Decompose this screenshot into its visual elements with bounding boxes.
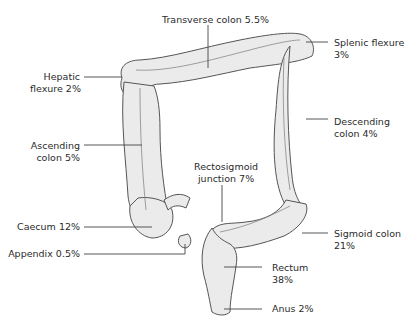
label-ascending-colon: Ascending colon 5% — [20, 140, 80, 164]
label-anus: Anus 2% — [272, 303, 314, 315]
label-ascending-line2: colon 5% — [20, 152, 80, 164]
label-rectum-line1: Rectum — [272, 262, 308, 274]
label-appendix-text: Appendix 0.5% — [0, 248, 80, 260]
label-caecum: Caecum 12% — [10, 221, 80, 233]
label-rectosigmoid-line1: Rectosigmoid — [194, 161, 258, 173]
label-splenic-line2: 3% — [334, 49, 404, 61]
ileum-stub-shape — [164, 194, 190, 210]
label-transverse-colon-text: Transverse colon 5.5% — [162, 14, 269, 26]
label-transverse-colon: Transverse colon 5.5% — [162, 14, 269, 26]
label-appendix: Appendix 0.5% — [0, 248, 80, 260]
label-ascending-line1: Ascending — [20, 140, 80, 152]
label-sigmoid-line2: 21% — [334, 240, 401, 252]
label-splenic-flexure: Splenic flexure 3% — [334, 37, 404, 61]
label-hepatic-line2: flexure 2% — [30, 83, 80, 95]
label-splenic-line1: Splenic flexure — [334, 37, 404, 49]
label-rectosigmoid-line2: junction 7% — [194, 173, 258, 185]
leader-appendix — [84, 244, 185, 254]
label-descending-line1: Descending — [334, 116, 390, 128]
label-caecum-text: Caecum 12% — [10, 221, 80, 233]
label-descending-line2: colon 4% — [334, 128, 390, 140]
label-anus-text: Anus 2% — [272, 303, 314, 315]
label-hepatic-flexure: Hepatic flexure 2% — [30, 71, 80, 95]
label-rectum: Rectum 38% — [272, 262, 308, 286]
label-sigmoid-colon: Sigmoid colon 21% — [334, 228, 401, 252]
label-descending-colon: Descending colon 4% — [334, 116, 390, 140]
label-rectosigmoid-junction: Rectosigmoid junction 7% — [194, 161, 258, 185]
label-sigmoid-line1: Sigmoid colon — [334, 228, 401, 240]
label-hepatic-line1: Hepatic — [30, 71, 80, 83]
label-rectum-line2: 38% — [272, 274, 308, 286]
